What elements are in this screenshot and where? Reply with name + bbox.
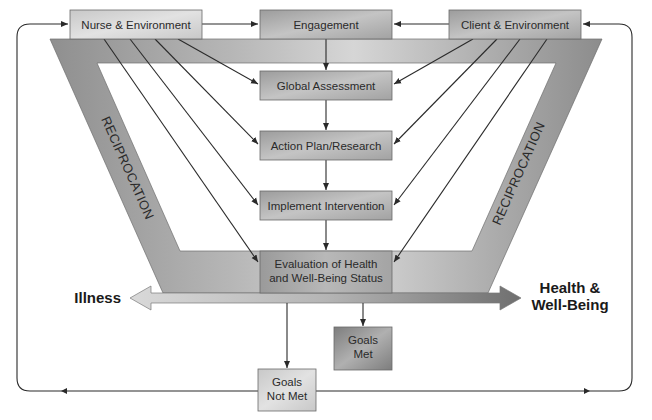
svg-text:Action Plan/Research: Action Plan/Research (271, 140, 382, 152)
svg-text:and Well-Being Status: and Well-Being Status (269, 272, 383, 284)
goals-met-box: Goals Met (334, 327, 392, 370)
svg-text:Implement Intervention: Implement Intervention (268, 200, 385, 212)
svg-text:Evaluation of Health: Evaluation of Health (275, 258, 378, 270)
health-label-line2: Well-Being (531, 296, 608, 313)
svg-text:Client & Environment: Client & Environment (461, 19, 570, 31)
nurse-environment-box: Nurse & Environment (70, 10, 202, 39)
goals-not-met-box: Goals Not Met (258, 369, 316, 411)
svg-text:Engagement: Engagement (293, 19, 359, 31)
client-environment-box: Client & Environment (449, 10, 581, 39)
svg-text:Nurse & Environment: Nurse & Environment (81, 19, 191, 31)
evaluation-box: Evaluation of Health and Well-Being Stat… (260, 251, 392, 293)
engagement-box: Engagement (260, 10, 392, 39)
implement-intervention-box: Implement Intervention (260, 191, 392, 220)
loop-arrow-right-icon (584, 388, 590, 394)
svg-text:Goals: Goals (272, 376, 302, 388)
svg-text:Not Met: Not Met (267, 390, 308, 402)
health-label-line1: Health & (540, 279, 601, 296)
svg-text:Global Assessment: Global Assessment (277, 80, 376, 92)
global-assessment-box: Global Assessment (260, 71, 392, 100)
action-plan-box: Action Plan/Research (260, 131, 392, 160)
loop-arrow-left-icon (61, 388, 67, 394)
svg-text:Met: Met (353, 348, 373, 360)
nursing-process-diagram: RECIPROCATION RECIPROCATION Illness Heal… (0, 0, 652, 420)
illness-label: Illness (74, 289, 121, 306)
svg-text:Goals: Goals (348, 334, 378, 346)
